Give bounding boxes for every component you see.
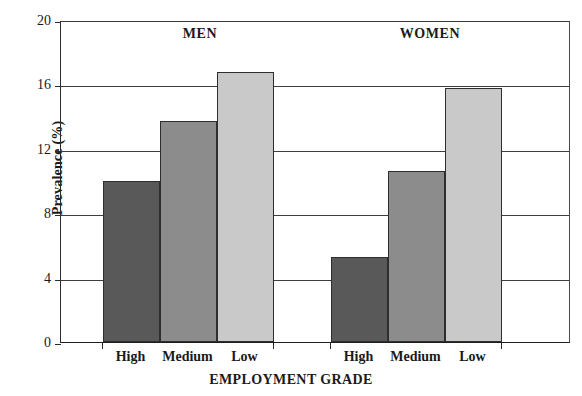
x-axis-tick-mark [102, 343, 103, 349]
bar-men-high [103, 181, 160, 342]
bar-women-high [331, 257, 388, 342]
group-title-women: WOMEN [400, 26, 461, 42]
y-axis-tick-mark [55, 22, 61, 23]
y-axis-tick-mark [55, 86, 61, 87]
bar-women-medium [388, 171, 445, 342]
plot-area: 048121620 [60, 21, 570, 343]
y-axis-tick-label: 8 [13, 207, 51, 221]
x-axis-label-women-medium: Medium [390, 349, 441, 365]
y-axis-tick-mark [55, 151, 61, 152]
bar-women-low [445, 88, 502, 342]
x-axis-label-men-medium: Medium [162, 349, 213, 365]
y-axis-tick-mark [55, 215, 61, 216]
bar-men-medium [160, 121, 217, 342]
y-axis-tick-label: 0 [13, 336, 51, 350]
x-axis-label-men-high: High [116, 349, 146, 365]
x-axis-tick-mark [501, 343, 502, 349]
y-axis-tick-label: 20 [13, 14, 51, 28]
x-axis-tick-mark [273, 343, 274, 349]
y-axis-tick-mark [55, 280, 61, 281]
group-title-men: MEN [183, 26, 217, 42]
bar-men-low [217, 72, 274, 342]
bar-chart-figure: Prevalence (%) 048121620 EMPLOYMENT GRAD… [0, 0, 582, 396]
y-axis-tick-label: 12 [13, 143, 51, 157]
x-axis-label-women-high: High [344, 349, 374, 365]
x-axis-label-men-low: Low [231, 349, 257, 365]
x-axis-label-women-low: Low [459, 349, 485, 365]
y-axis-tick-label: 16 [13, 78, 51, 92]
x-axis-tick-mark [330, 343, 331, 349]
y-axis-tick-label: 4 [13, 272, 51, 286]
y-axis-tick-mark [55, 344, 61, 345]
x-axis-label: EMPLOYMENT GRADE [0, 372, 582, 388]
